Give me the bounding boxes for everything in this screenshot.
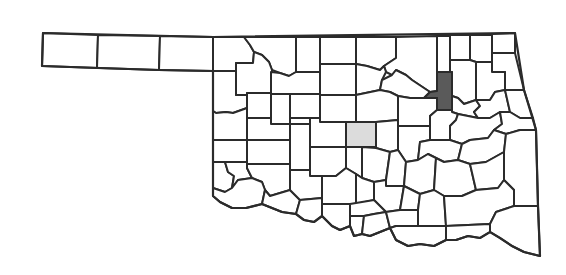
county-payne [356,90,398,122]
county-logan [320,95,356,122]
county-texas [97,35,160,70]
county-roger-mills [213,108,247,140]
county-atoka [418,190,446,226]
county-kingfisher [290,94,320,118]
county-garfield [320,64,356,95]
panhandle [42,33,213,71]
county-washita [247,140,290,164]
county-grant [320,37,356,64]
county-alfalfa [296,37,320,72]
county-blaine [271,94,290,124]
county-cimarron [42,33,98,68]
county-craig [470,35,492,62]
county-major [271,72,320,94]
county-ottawa [492,33,515,53]
county-caddo [290,124,310,170]
county-washington [437,36,450,72]
county-canadian [310,118,346,147]
county-jefferson [322,204,350,230]
county-highlighted-light [346,122,376,147]
county-choctaw [446,224,490,240]
county-marshall [362,212,390,236]
county-beaver [159,36,213,71]
county-nowata [450,35,470,60]
county-lincoln [376,120,398,152]
county-dewey [247,93,271,118]
counties [213,33,540,256]
county-beckham [213,140,247,162]
oklahoma-county-map [0,0,566,275]
